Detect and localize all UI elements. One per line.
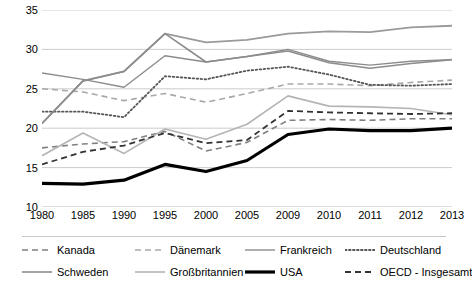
x-tick-label: 2013 xyxy=(440,209,464,221)
plot-svg xyxy=(42,10,452,207)
series-line-gro-britannien xyxy=(42,96,452,156)
solid-line-swatch xyxy=(135,266,165,278)
legend-label: Frankreich xyxy=(280,244,332,256)
legend-label: USA xyxy=(280,266,303,278)
series-line-frankreich xyxy=(42,49,452,87)
legend-item-deutschland: Deutschland xyxy=(345,244,441,256)
legend-item-frankreich: Frankreich xyxy=(245,244,332,256)
x-tick-label: 2012 xyxy=(399,209,423,221)
x-tick-label: 2011 xyxy=(358,209,382,221)
x-tick-label: 1990 xyxy=(112,209,136,221)
legend-label: OECD - Insgesamt xyxy=(380,266,472,278)
legend-item-kanada: Kanada xyxy=(22,244,95,256)
legend-label: Deutschland xyxy=(380,244,441,256)
y-tick-label: 35 xyxy=(12,5,38,16)
dashed-line-swatch xyxy=(22,244,52,256)
legend-label: Schweden xyxy=(57,266,108,278)
x-tick-label: 2005 xyxy=(235,209,259,221)
solid-line-swatch xyxy=(245,244,275,256)
y-axis-tick-labels: 10 15 20 25 30 35 xyxy=(6,10,38,207)
x-tick-label: 2000 xyxy=(194,209,218,221)
x-tick-label: 2010 xyxy=(317,209,341,221)
solid-line-swatch xyxy=(22,266,52,278)
legend-label: Großbritannien xyxy=(170,266,243,278)
y-tick-label: 20 xyxy=(12,123,38,134)
series-line-deutschland xyxy=(42,67,452,117)
legend-item-grossbritannien: Großbritannien xyxy=(135,266,243,278)
legend: Kanada Dänemark Frankreich Deutschland S xyxy=(0,236,468,286)
legend-item-daenemark: Dänemark xyxy=(135,244,221,256)
legend-divider xyxy=(22,236,446,237)
x-tick-label: 2009 xyxy=(276,209,300,221)
legend-label: Dänemark xyxy=(170,244,221,256)
thick-solid-line-swatch xyxy=(245,266,275,278)
legend-item-oecd-insgesamt: OECD - Insgesamt xyxy=(345,266,472,278)
dashed-line-swatch xyxy=(135,244,165,256)
series-line-schweden xyxy=(42,34,452,124)
y-tick-label: 25 xyxy=(12,84,38,95)
x-tick-label: 1985 xyxy=(71,209,95,221)
x-axis-tick-labels: 1980 1985 1990 1995 2000 2005 2009 2010 … xyxy=(42,209,452,225)
dotted-line-swatch xyxy=(345,244,375,256)
x-tick-label: 1980 xyxy=(30,209,54,221)
legend-item-schweden: Schweden xyxy=(22,266,108,278)
series-line-usa xyxy=(42,128,452,184)
series-line-schweden-upper xyxy=(42,26,452,124)
x-tick-label: 1995 xyxy=(153,209,177,221)
y-tick-label: 15 xyxy=(12,163,38,174)
dashed-line-swatch xyxy=(345,266,375,278)
legend-label: Kanada xyxy=(57,244,95,256)
plot-area xyxy=(42,10,452,207)
legend-item-usa: USA xyxy=(245,266,303,278)
y-tick-label: 30 xyxy=(12,44,38,55)
